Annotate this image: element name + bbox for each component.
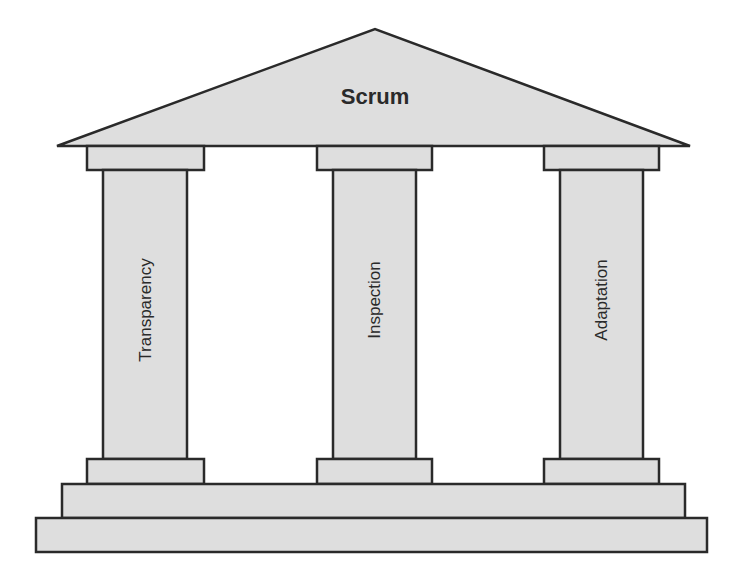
pillar-inspection: Inspection <box>317 146 432 484</box>
pillar-label: Adaptation <box>592 259 611 340</box>
pillar-transparency: Transparency <box>87 146 204 484</box>
roof: Scrum <box>57 29 690 146</box>
pillar-adaptation: Adaptation <box>544 146 659 484</box>
pillar-label: Transparency <box>136 258 155 362</box>
upper-step <box>62 484 685 518</box>
foundation-steps <box>36 484 707 552</box>
pillar-base <box>87 459 204 484</box>
lower-step <box>36 518 707 552</box>
pillar-base <box>317 459 432 484</box>
pillar-base <box>544 459 659 484</box>
roof-title: Scrum <box>341 84 409 109</box>
pillar-label: Inspection <box>365 261 384 339</box>
pillar-capital <box>544 146 659 170</box>
scrum-temple-diagram: Scrum Transparency Inspection Adaptation <box>0 0 745 584</box>
pillar-capital <box>87 146 204 170</box>
pillar-capital <box>317 146 432 170</box>
